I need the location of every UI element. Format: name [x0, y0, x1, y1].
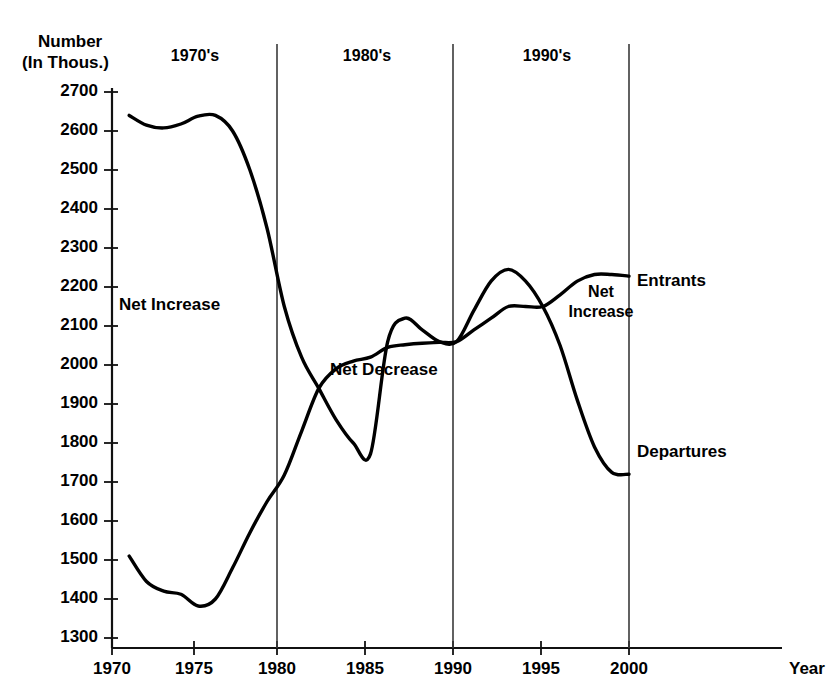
series-line-departures: [129, 274, 629, 606]
chart-plot-area: [0, 0, 831, 700]
y-axis-title-line2: (In Thous.): [22, 54, 109, 72]
y-tick-label-2000: 2000: [36, 355, 98, 373]
x-tick-label-1985: 1985: [335, 660, 395, 678]
series-label-departures: Departures: [637, 443, 727, 461]
y-tick-label-2200: 2200: [36, 277, 98, 295]
x-tick-label-1980: 1980: [247, 660, 307, 678]
y-tick-label-1400: 1400: [36, 589, 98, 607]
decade-label-1970s: 1970's: [140, 47, 250, 64]
y-tick-label-2400: 2400: [36, 199, 98, 217]
x-axis-title: Year: [789, 660, 825, 678]
y-tick-label-1900: 1900: [36, 394, 98, 412]
x-tick-label-1975: 1975: [164, 660, 224, 678]
annotation-net-increase-1970s: Net Increase: [119, 296, 220, 314]
decade-label-1990s: 1990's: [492, 47, 602, 64]
annotation-net-decrease: Net Decrease: [330, 361, 438, 379]
annotation-net-increase-1990s-line2: Increase: [546, 303, 656, 320]
series-label-entrants: Entrants: [637, 272, 706, 290]
y-tick-label-1600: 1600: [36, 511, 98, 529]
y-tick-label-1800: 1800: [36, 433, 98, 451]
x-tick-label-2000: 2000: [599, 660, 659, 678]
y-tick-label-1700: 1700: [36, 472, 98, 490]
y-tick-label-2500: 2500: [36, 160, 98, 178]
x-tick-label-1990: 1990: [423, 660, 483, 678]
y-tick-label-1300: 1300: [36, 628, 98, 646]
y-axis-title-line1: Number: [38, 33, 102, 51]
decade-dividers: [277, 44, 629, 648]
y-tick-label-2700: 2700: [36, 82, 98, 100]
x-tick-label-1995: 1995: [511, 660, 571, 678]
x-tick-label-1970: 1970: [82, 660, 142, 678]
y-tick-label-2100: 2100: [36, 316, 98, 334]
y-tick-label-2300: 2300: [36, 238, 98, 256]
y-tick-label-1500: 1500: [36, 550, 98, 568]
y-tick-label-2600: 2600: [36, 121, 98, 139]
chart-container: Number (In Thous.) 2700 2600 2500 2400 2…: [0, 0, 831, 700]
decade-label-1980s: 1980's: [312, 47, 422, 64]
